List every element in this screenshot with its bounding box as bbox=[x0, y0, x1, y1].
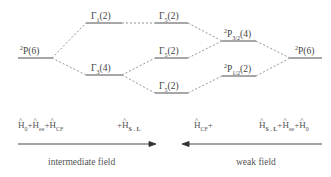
connector bbox=[188, 23, 222, 41]
caption-weak-field: weak field bbox=[236, 157, 276, 167]
arrowhead-left-icon bbox=[182, 142, 189, 147]
hamiltonian-right-cf: HCF+ bbox=[194, 120, 213, 130]
energy-level-diagram: 2P(6) Γ1(2) Γ3(4) Γ5(2) Γ5(2) Γ5(2) 2P3/… bbox=[0, 0, 331, 177]
connector bbox=[52, 23, 86, 58]
hamiltonian-right: HS . L+Hee+H0 bbox=[259, 120, 309, 130]
caption-intermediate-field: intermediate field bbox=[48, 157, 115, 167]
hamiltonian-left-spin-orbit: +HS . L bbox=[117, 120, 140, 130]
connector bbox=[188, 41, 222, 58]
connector bbox=[256, 41, 290, 58]
label-2P3/2: 2P3/2(4) bbox=[224, 29, 251, 39]
connector bbox=[122, 58, 155, 75]
connector bbox=[122, 75, 155, 93]
label-2P1/2: 2P1/2(2) bbox=[224, 64, 251, 74]
label-gamma1: Γ1(2) bbox=[91, 11, 111, 21]
arrowhead-right-icon bbox=[149, 142, 156, 147]
label-gamma3: Γ3(4) bbox=[91, 63, 111, 73]
connector bbox=[52, 58, 86, 75]
hamiltonian-left: H0+Hee+HCF bbox=[18, 120, 63, 130]
label-gamma5-top: Γ5(2) bbox=[159, 11, 179, 21]
label-right-2P: 2P(6) bbox=[295, 46, 314, 56]
connector bbox=[256, 58, 290, 76]
label-left-2P: 2P(6) bbox=[20, 46, 39, 56]
label-gamma5-middle: Γ5(2) bbox=[159, 46, 179, 56]
connector bbox=[188, 76, 222, 93]
label-gamma5-bottom: Γ5(2) bbox=[159, 81, 179, 91]
